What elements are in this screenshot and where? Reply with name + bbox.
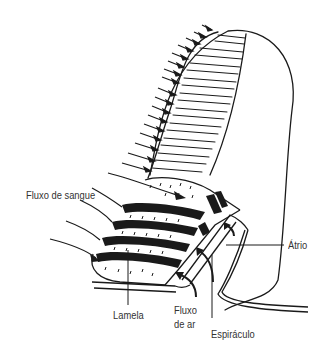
- label-blood-flow: Fluxo de sangue: [26, 189, 95, 202]
- strip-right-edge: [210, 34, 246, 175]
- water-flow-arrows: [122, 25, 212, 172]
- strip-left-edge: [148, 32, 218, 178]
- base-plate-2: [94, 288, 176, 292]
- label-spiracle: Espiráculo: [211, 328, 255, 341]
- blood-arrowhead: [174, 191, 186, 200]
- label-lamella: Lamela: [113, 309, 144, 322]
- label-air-flow-line2: de ar: [174, 318, 195, 331]
- label-air-flow-line1: Fluxo: [174, 304, 197, 317]
- diagram-canvas: [0, 0, 334, 356]
- lamella-lines: [152, 35, 245, 172]
- label-atrium: Átrio: [288, 239, 307, 252]
